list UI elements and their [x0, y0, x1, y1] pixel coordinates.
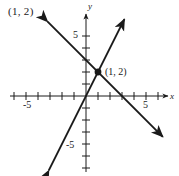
y-tick-label-neg5: -5: [66, 140, 74, 150]
axis-y: [82, 14, 90, 172]
graph-figure: (1, 2) (1, 2) x y -5 5 5 -5: [0, 0, 179, 176]
x-tick-label-pos5: 5: [143, 100, 148, 110]
x-tick-label-neg5: -5: [23, 100, 31, 110]
y-axis-label: y: [88, 2, 92, 11]
series-descending-line: [48, 22, 163, 137]
coordinate-plane: [0, 0, 179, 176]
intersection-point-label: (1, 2): [105, 67, 127, 77]
corner-point-label: (1, 2): [8, 6, 34, 17]
intersection-point-marker: [95, 69, 102, 76]
series-ascending-line: [49, 19, 125, 170]
x-axis-label: x: [170, 92, 174, 101]
y-tick-label-pos5: 5: [73, 30, 78, 40]
